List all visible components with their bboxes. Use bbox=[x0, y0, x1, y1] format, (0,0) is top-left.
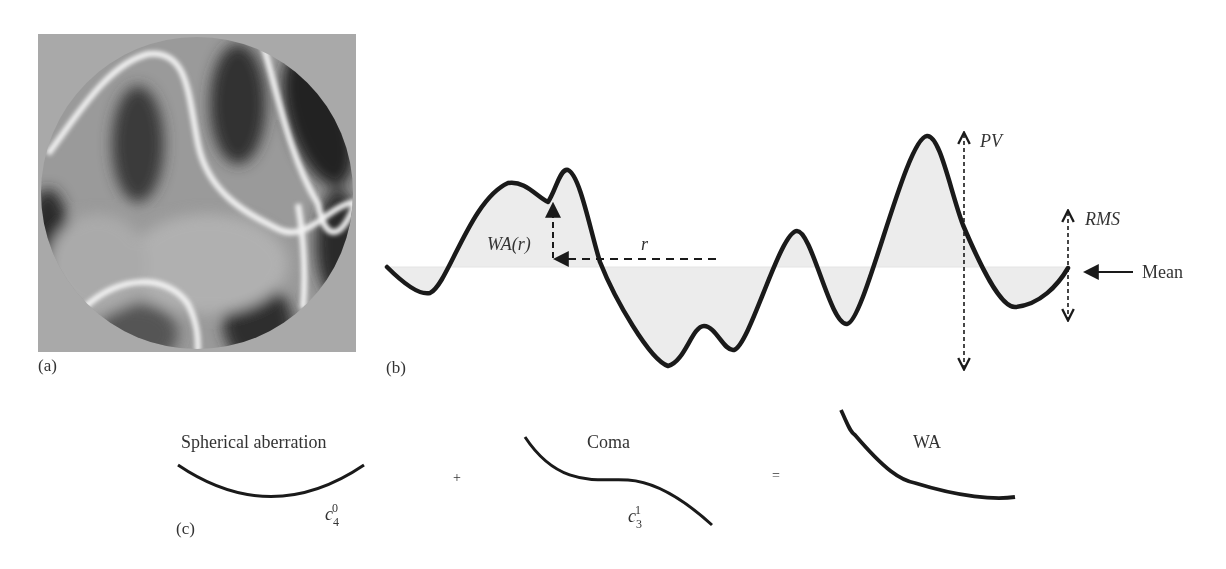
coma-label: Coma bbox=[587, 432, 630, 452]
equals-operator: = bbox=[772, 468, 780, 483]
panel-c-label: (c) bbox=[176, 519, 195, 538]
wa-r-label: WA(r) bbox=[487, 234, 531, 255]
coma-coefficient: c31 bbox=[628, 503, 642, 531]
wavefront-diagram: WA(r) r PV RMS Mean (b) Spherical aberra… bbox=[0, 0, 1226, 569]
spherical-aberration-curve bbox=[178, 465, 364, 497]
plus-operator: + bbox=[453, 470, 461, 485]
wa-curve bbox=[841, 410, 1015, 498]
panel-b-label: (b) bbox=[386, 358, 406, 377]
r-label: r bbox=[641, 234, 649, 254]
spherical-aberration-label: Spherical aberration bbox=[181, 432, 326, 452]
pv-label: PV bbox=[979, 131, 1004, 151]
wa-label: WA bbox=[913, 432, 941, 452]
aberration-sum: Spherical aberration c40 + Coma c31 = WA… bbox=[176, 410, 1015, 538]
mean-label: Mean bbox=[1142, 262, 1183, 282]
spherical-coefficient: c40 bbox=[325, 501, 339, 529]
rms-label: RMS bbox=[1084, 209, 1120, 229]
